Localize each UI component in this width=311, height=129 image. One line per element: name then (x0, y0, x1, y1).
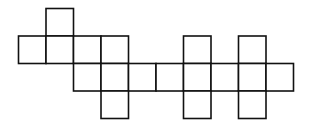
grid-square-r1-c1 (46, 36, 74, 64)
grid-square-r2-c3 (101, 64, 129, 92)
grid-square-r2-c9 (266, 64, 294, 92)
grid-square-r1-c2 (74, 36, 102, 64)
grid-square-r3-c3 (101, 91, 129, 119)
grid-square-r2-c7 (211, 64, 239, 92)
grid-square-r1-c0 (19, 36, 47, 64)
grid-square-r1-c8 (239, 36, 267, 64)
grid-square-r3-c6 (184, 91, 212, 119)
grid-square-r2-c6 (184, 64, 212, 92)
grid-square-r1-c6 (184, 36, 212, 64)
square-net-diagram (0, 0, 311, 129)
grid-square-r1-c3 (101, 36, 129, 64)
grid-square-r0-c1 (46, 9, 74, 37)
grid-square-r3-c8 (239, 91, 267, 119)
grid-square-r2-c4 (129, 64, 157, 92)
grid-square-r2-c2 (74, 64, 102, 92)
grid-square-r2-c5 (156, 64, 184, 92)
grid-square-r2-c8 (239, 64, 267, 92)
